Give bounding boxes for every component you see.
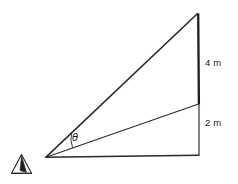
angle-label-theta: θ (72, 133, 78, 143)
dimension-label-4m: 4 m (205, 58, 221, 68)
sight-line-to-mid (46, 104, 199, 157)
upper-vertical-4m (198, 14, 199, 105)
geometry-figure: 4 m 2 m θ (0, 0, 238, 184)
dimension-label-2m: 2 m (205, 118, 221, 128)
ground-line (46, 155, 199, 157)
sight-line-to-apex (46, 14, 198, 158)
figure-canvas (0, 0, 238, 184)
eye-observer-icon (12, 155, 32, 174)
